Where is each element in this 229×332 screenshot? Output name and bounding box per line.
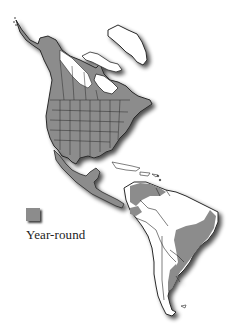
caribbean-islands xyxy=(112,162,161,181)
south-america xyxy=(124,182,218,316)
range-map xyxy=(0,0,229,332)
greenland xyxy=(108,25,147,65)
legend: Year-round xyxy=(26,208,106,243)
legend-label: Year-round xyxy=(26,227,106,243)
falkland-islands xyxy=(181,305,186,308)
legend-swatch-year-round xyxy=(26,208,40,221)
mexico-central-america xyxy=(54,150,124,208)
